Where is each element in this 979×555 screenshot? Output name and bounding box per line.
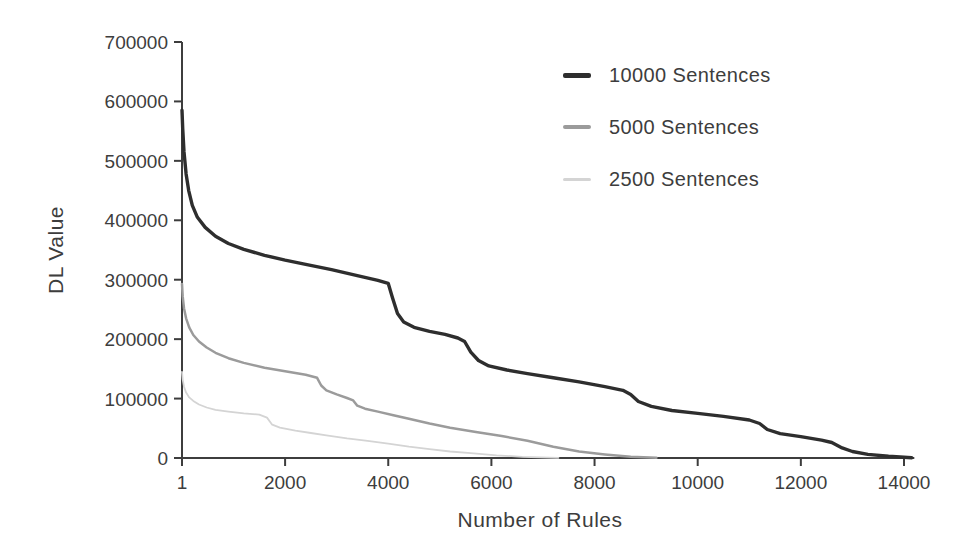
x-tick-label: 6000 [470,472,512,493]
x-axis-title: Number of Rules [457,508,622,532]
legend-item-10000: 10000 Sentences [563,60,771,90]
legend-line-swatch-5000 [563,125,591,129]
y-tick-label: 400000 [105,210,168,231]
y-tick-label: 500000 [105,151,168,172]
y-tick-label: 300000 [105,270,168,291]
x-tick-label: 8000 [573,472,615,493]
legend-item-2500: 2500 Sentences [563,164,771,194]
series-line-10000-sentences [182,110,912,457]
legend: 10000 Sentences 5000 Sentences 2500 Sent… [563,60,771,194]
x-tick-label: 14000 [878,472,931,493]
series-line-5000-sentences [182,284,656,458]
y-tick-label: 700000 [105,32,168,53]
x-tick-label: 1 [177,472,188,493]
legend-line-swatch-2500 [563,178,591,181]
y-tick-label: 200000 [105,329,168,350]
y-tick-label: 100000 [105,389,168,410]
series-line-2500-sentences [182,372,558,458]
y-axis-title: DL Value [44,206,68,294]
x-tick-label: 10000 [671,472,724,493]
y-tick-label: 600000 [105,91,168,112]
x-tick-label: 12000 [774,472,827,493]
chart-figure: 0100000200000300000400000500000600000700… [0,0,979,555]
legend-item-5000: 5000 Sentences [563,112,771,142]
plot-area: 0100000200000300000400000500000600000700… [0,0,979,555]
x-tick-label: 2000 [264,472,306,493]
legend-line-swatch-10000 [563,73,591,78]
legend-label-5000: 5000 Sentences [609,116,759,139]
legend-label-10000: 10000 Sentences [609,64,771,87]
y-tick-label: 0 [157,448,168,469]
axes-lines [182,42,914,458]
legend-label-2500: 2500 Sentences [609,168,759,191]
x-tick-label: 4000 [367,472,409,493]
